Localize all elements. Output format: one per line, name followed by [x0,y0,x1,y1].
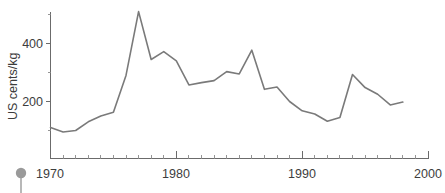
y-tick-label-200: 200 [22,95,43,109]
pin-marker-icon [16,168,26,193]
y-tick-label-400: 400 [22,37,43,51]
data-series-line [51,12,403,132]
x-tick-label-1970: 1970 [36,167,64,181]
x-axis-ticks [51,151,429,159]
x-tick-label-1990: 1990 [288,167,316,181]
y-axis-title: US cents/kg [6,53,20,120]
x-tick-label-1980: 1980 [162,167,190,181]
line-chart: 400 200 US cents/kg 1970 1980 1990 2000 [0,0,445,193]
chart-screenshot: 400 200 US cents/kg 1970 1980 1990 2000 [0,0,445,193]
x-tick-label-2000: 2000 [414,167,442,181]
